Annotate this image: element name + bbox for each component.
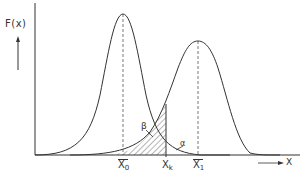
alpha-label: α: [180, 140, 185, 148]
tick-x0: X0: [118, 160, 129, 172]
y-direction-arrow-icon: [16, 36, 20, 70]
tick-x1: X1: [193, 160, 204, 172]
diagram-canvas: [0, 0, 304, 175]
x-direction-arrow-icon: [258, 161, 284, 165]
tick-xk: Xk: [162, 160, 173, 172]
y-axis-label: F(x): [5, 19, 26, 29]
right-distribution-curve: [70, 41, 280, 155]
left-distribution-curve: [35, 14, 230, 155]
beta-label: β: [141, 122, 147, 131]
x-axis-label: X: [286, 158, 292, 167]
